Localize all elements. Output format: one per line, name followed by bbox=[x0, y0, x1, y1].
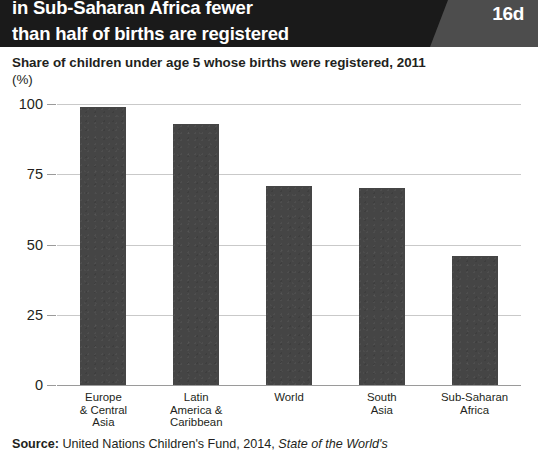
y-tick-mark-100 bbox=[47, 104, 56, 105]
bar-chart: 0255075100Europe& CentralAsiaLatinAmeric… bbox=[0, 0, 538, 458]
source-italic-title: State of the World's bbox=[278, 437, 388, 451]
x-axis-label-line: Asia bbox=[51, 416, 155, 429]
y-axis-label-25: 25 bbox=[27, 307, 43, 323]
x-axis-label-4: SouthAsia bbox=[330, 391, 434, 416]
x-axis-label-2: LatinAmerica &Caribbean bbox=[144, 391, 248, 429]
gridline-75 bbox=[57, 174, 521, 175]
y-axis-label-0: 0 bbox=[35, 377, 43, 393]
x-axis-label-1: Europe& CentralAsia bbox=[51, 391, 155, 429]
source-note: Source: United Nations Children's Fund, … bbox=[12, 437, 532, 452]
y-axis-label-75: 75 bbox=[27, 166, 43, 182]
x-axis-label-line: Asia bbox=[330, 404, 434, 417]
x-axis-label-line: Europe bbox=[51, 391, 155, 404]
x-axis-label-line: & Central bbox=[51, 404, 155, 417]
x-axis-label-line: World bbox=[237, 391, 341, 404]
x-axis-label-line: Sub-Saharan bbox=[423, 391, 527, 404]
y-tick-mark-25 bbox=[47, 315, 56, 316]
bar-4[interactable] bbox=[359, 188, 405, 385]
x-axis-label-5: Sub-SaharanAfrica bbox=[423, 391, 527, 416]
plot-area: 0255075100Europe& CentralAsiaLatinAmeric… bbox=[57, 104, 521, 385]
x-axis-label-line: Latin bbox=[144, 391, 248, 404]
bar-5[interactable] bbox=[452, 256, 498, 385]
bar-2[interactable] bbox=[173, 124, 219, 385]
bar-1[interactable] bbox=[80, 107, 126, 385]
source-text: United Nations Children's Fund, 2014, bbox=[59, 437, 278, 451]
source-label: Source: bbox=[12, 437, 59, 451]
y-tick-mark-75 bbox=[47, 174, 56, 175]
y-axis-label-100: 100 bbox=[19, 96, 43, 112]
gridline-0 bbox=[57, 385, 521, 386]
bar-3[interactable] bbox=[266, 186, 312, 386]
y-axis-label-50: 50 bbox=[27, 237, 43, 253]
x-axis-label-line: Caribbean bbox=[144, 416, 248, 429]
x-axis-label-line: Africa bbox=[423, 404, 527, 417]
y-tick-mark-50 bbox=[47, 245, 56, 246]
x-axis-label-3: World bbox=[237, 391, 341, 404]
x-axis-label-line: America & bbox=[144, 404, 248, 417]
x-axis-label-line: South bbox=[330, 391, 434, 404]
y-tick-mark-0 bbox=[47, 385, 56, 386]
gridline-100 bbox=[57, 104, 521, 105]
